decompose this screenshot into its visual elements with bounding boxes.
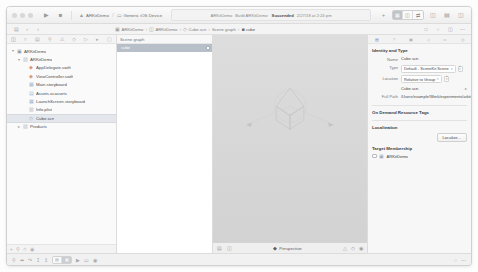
- console-icon[interactable]: ▭: [84, 257, 89, 263]
- tree-item-main-storyboard[interactable]: ▦Main.storyboard: [7, 81, 116, 89]
- breadcrumb-item-3[interactable]: Scene graph: [212, 27, 236, 32]
- step-into-icon[interactable]: ↧: [36, 257, 40, 263]
- view-mode-list[interactable]: ▤: [53, 257, 62, 263]
- tree-item-cube-scn[interactable]: ◇Cube.scn: [7, 114, 116, 122]
- breadcrumb-item-4[interactable]: ■ cube: [241, 26, 255, 32]
- name-value[interactable]: Cube.scn: [401, 56, 467, 62]
- tree-item-assets-xcassets[interactable]: ▤Assets.xcassets: [7, 89, 116, 97]
- scene-graph-list[interactable]: cube: [117, 44, 212, 52]
- filter-icon[interactable]: ⚲: [16, 247, 20, 252]
- location-stepper[interactable]: ▴▾: [444, 76, 449, 82]
- run-button[interactable]: ▶: [41, 10, 52, 21]
- add-file-icon[interactable]: +: [10, 247, 13, 252]
- scene-graph-panel: Scene graph cube: [117, 35, 213, 253]
- main-toolbar: ▶ ■ ▲ ARKitDemo / ▭ Generic iOS Device A…: [7, 7, 471, 24]
- type-select[interactable]: Default - SceneKit Scene ▾: [401, 65, 456, 73]
- tab-debug-navigator[interactable]: ▷: [84, 37, 88, 42]
- tab-project-navigator[interactable]: ◫: [11, 37, 16, 42]
- tab-symbol-navigator[interactable]: ▤: [35, 37, 40, 42]
- grid-icon[interactable]: ▤: [217, 245, 222, 251]
- source-control-filter-icon[interactable]: ◉: [30, 247, 34, 252]
- tab-size-inspector[interactable]: ▭: [443, 37, 447, 42]
- related-items-icon[interactable]: ▤: [12, 25, 20, 33]
- minimize-button[interactable]: [20, 13, 25, 18]
- tree-item-products[interactable]: ▸▧Products: [7, 123, 116, 131]
- file-inspector-body: Identity and Type Name Cube.scn Type Def…: [368, 44, 471, 253]
- step-over-icon[interactable]: ↷: [28, 257, 32, 263]
- tree-item-label: Info.plist: [36, 107, 52, 112]
- navigator-toggle-button[interactable]: ◫: [427, 10, 438, 21]
- activity-status-view[interactable]: ARKitDemo Build ARKitDemo: Succeeded 2/2…: [171, 9, 371, 21]
- debug-area-toggle-button[interactable]: ▤: [441, 10, 452, 21]
- filter-icon[interactable]: ⚲: [12, 257, 16, 263]
- snap-icon[interactable]: ◫: [227, 245, 232, 251]
- target-checkbox[interactable]: [372, 154, 377, 159]
- stop-button[interactable]: ■: [55, 10, 66, 21]
- scene-canvas[interactable]: [213, 35, 367, 242]
- tree-item-label: Assets.xcassets: [36, 91, 67, 96]
- tree-item-launchscreen-storyboard[interactable]: ▦LaunchScreen.storyboard: [7, 97, 116, 105]
- breakpoint-icon[interactable]: ➥: [20, 257, 24, 263]
- breadcrumb: ▣ ARKitDemo › ◫ ARKitDemo › ◇ Cube.scn ›…: [45, 26, 419, 32]
- tab-find-navigator[interactable]: ⚲: [48, 37, 52, 42]
- assistant-editor-button[interactable]: ◫: [403, 11, 413, 19]
- tab-breakpoint-navigator[interactable]: ▸: [96, 37, 99, 42]
- view-mode-grid[interactable]: ▦: [62, 257, 71, 263]
- zoom-in-icon[interactable]: ◇: [351, 245, 355, 251]
- tree-item-info-plist[interactable]: ▥Info.plist: [7, 106, 116, 114]
- tab-issue-navigator[interactable]: ⚠: [60, 37, 64, 42]
- step-out-icon[interactable]: ↥: [44, 257, 48, 263]
- scene-graph-row[interactable]: cube: [117, 44, 212, 52]
- tab-test-navigator[interactable]: ◇: [72, 37, 76, 42]
- localize-button[interactable]: Localize...: [437, 133, 467, 142]
- tree-item-appdelegate-swift[interactable]: ◆AppDelegate.swift: [7, 64, 116, 72]
- render-icon[interactable]: ◉: [359, 245, 363, 251]
- page-back-icon[interactable]: □: [422, 25, 430, 33]
- type-stepper[interactable]: ▴▾: [458, 66, 463, 72]
- page-forward-icon[interactable]: ○: [434, 25, 442, 33]
- variables-icon[interactable]: ◉: [93, 257, 97, 263]
- tab-source-control-navigator[interactable]: ▿: [24, 37, 27, 42]
- tree-item-arkitdemo[interactable]: ▾▣ARKitDemo: [7, 47, 116, 55]
- more-options-icon[interactable]: ⋯: [458, 25, 466, 33]
- more-icon[interactable]: ⋯: [461, 257, 466, 263]
- breadcrumb-item-0[interactable]: ▣ ARKitDemo: [115, 27, 143, 32]
- choose-file-icon[interactable]: ▸: [465, 86, 467, 91]
- location-select[interactable]: Relative to Group ▾: [401, 75, 442, 83]
- storyboard-icon: ▦: [28, 99, 34, 104]
- tab-attributes-inspector[interactable]: ◇: [427, 37, 430, 42]
- tab-connections-inspector[interactable]: ◎: [461, 37, 464, 42]
- tree-item-arkitdemo[interactable]: ▾▧ARKitDemo: [7, 55, 116, 63]
- standard-editor-button[interactable]: ▦: [393, 11, 403, 19]
- gizmo-arrow-left: [246, 122, 252, 127]
- continue-icon[interactable]: ▶: [76, 257, 80, 263]
- breadcrumb-separator: ›: [145, 26, 147, 32]
- target-row[interactable]: ▣ ARKitDemo: [372, 154, 467, 159]
- tree-item-viewcontroller-swift[interactable]: ◆ViewController.swift: [7, 72, 116, 80]
- camera-label: Perspective: [279, 246, 301, 251]
- back-button[interactable]: ‹: [23, 25, 31, 33]
- breadcrumb-item-1[interactable]: ◫ ARKitDemo: [149, 27, 177, 32]
- tab-file-inspector[interactable]: ▤: [375, 37, 379, 42]
- tab-quick-help-inspector[interactable]: ?: [393, 37, 395, 42]
- scene-graph-row-label: cube: [121, 45, 130, 50]
- forward-button[interactable]: ›: [34, 25, 42, 33]
- zoom-out-icon[interactable]: △: [343, 245, 347, 251]
- split-editor-icon[interactable]: ◫: [446, 25, 454, 33]
- utilities-toggle-button[interactable]: ◫: [455, 10, 466, 21]
- tab-identity-inspector[interactable]: ▣: [409, 37, 413, 42]
- scheme-divider: /: [112, 12, 114, 18]
- project-file-tree[interactable]: ▾▣ARKitDemo▾▧ARKitDemo◆AppDelegate.swift…: [7, 44, 116, 244]
- breadcrumb-item-2[interactable]: ◇ Cube.scn: [183, 27, 206, 32]
- info-icon[interactable]: ○: [454, 257, 457, 263]
- camera-selector[interactable]: ◆ Perspective: [273, 245, 301, 251]
- version-editor-button[interactable]: ⇄: [413, 11, 423, 19]
- recent-files-icon[interactable]: ⏱: [23, 247, 27, 252]
- location-filename[interactable]: Cube.scn: [401, 86, 462, 92]
- close-button[interactable]: [12, 13, 17, 18]
- tab-report-navigator[interactable]: ▢: [107, 37, 112, 42]
- library-button[interactable]: +: [378, 10, 389, 21]
- zoom-button[interactable]: [28, 13, 33, 18]
- scheme-selector[interactable]: ▲ ARKitDemo / ▭ Generic iOS Device: [77, 12, 164, 18]
- tree-item-label: LaunchScreen.storyboard: [36, 99, 85, 104]
